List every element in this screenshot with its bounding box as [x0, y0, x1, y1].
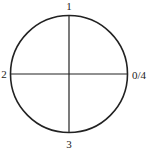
label-right: 0/4	[132, 69, 147, 81]
label-top: 1	[66, 0, 72, 12]
quadrant-circle-diagram: 1 2 3 0/4	[0, 0, 148, 153]
label-bottom: 3	[66, 138, 72, 150]
label-left: 2	[1, 68, 7, 80]
